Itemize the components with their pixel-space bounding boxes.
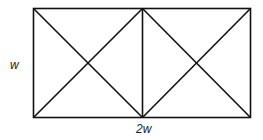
width-label: 2w — [136, 122, 151, 136]
height-label: w — [10, 58, 19, 72]
rectangle-diagram — [0, 0, 263, 140]
